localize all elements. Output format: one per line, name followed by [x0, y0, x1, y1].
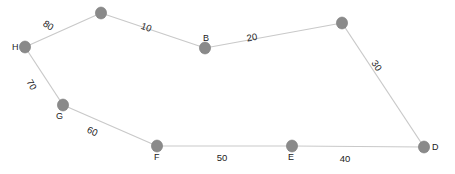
edge-D-E: [292, 146, 424, 147]
graph-node-H: [19, 41, 30, 53]
edge-weight-label: 30: [369, 58, 384, 73]
edge-top1-B: [101, 13, 205, 48]
graph-node-G: [57, 99, 68, 111]
graph-node-E: [286, 140, 297, 152]
edge-F-G: [63, 105, 157, 146]
node-label-H: H: [12, 42, 19, 52]
edge-G-H: [25, 47, 63, 105]
graph-node-top2: [336, 17, 347, 29]
graph-node-D: [418, 141, 429, 153]
graph-node-top1: [95, 7, 106, 19]
edge-weight-label: 20: [246, 31, 258, 44]
node-label-B: B: [203, 33, 209, 43]
nodes-group: [19, 7, 429, 153]
graph-diagram: 8010203040506070 HBDEFG: [0, 0, 455, 174]
node-label-G: G: [56, 111, 63, 121]
edge-weight-label: 10: [139, 20, 153, 34]
node-label-D: D: [432, 142, 439, 152]
edge-H-top1: [25, 13, 101, 47]
node-label-E: E: [288, 152, 294, 162]
edge-top2-D: [342, 23, 424, 147]
edge-B-top2: [205, 23, 342, 48]
edge-weight-label: 80: [41, 18, 56, 33]
edge-weight-label: 70: [24, 77, 39, 92]
graph-node-B: [199, 42, 210, 54]
edge-weight-label: 40: [340, 153, 351, 164]
node-label-F: F: [154, 152, 160, 162]
edge-weight-label: 50: [217, 152, 228, 163]
edge-weight-label: 60: [85, 124, 99, 138]
graph-node-F: [151, 140, 162, 152]
node-labels-group: HBDEFG: [12, 33, 439, 162]
edges-group: [25, 13, 424, 147]
